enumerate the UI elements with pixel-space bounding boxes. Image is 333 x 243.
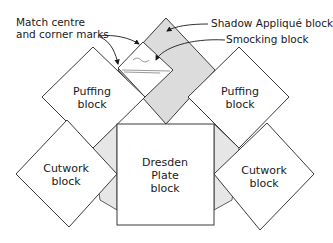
- puffing-right-label-1: Puffing: [221, 85, 259, 98]
- cutwork-right-label-2: block: [249, 177, 279, 190]
- dresden-label-1: Dresden: [142, 156, 188, 169]
- smocking-label: Smocking block: [226, 33, 310, 45]
- cutwork-left-label-2: block: [51, 175, 81, 188]
- match-marks-label-line2: and corner marks: [16, 28, 109, 40]
- quilt-layout-diagram: Match centre and corner marks Shadow App…: [0, 0, 333, 243]
- puffing-left-label-2: block: [77, 98, 107, 111]
- dresden-label-3: block: [150, 182, 180, 195]
- puffing-left-label-1: Puffing: [73, 85, 111, 98]
- cutwork-left-label-1: Cutwork: [43, 162, 89, 175]
- match-marks-label-line1: Match centre: [16, 16, 85, 28]
- cutwork-right-label-1: Cutwork: [241, 164, 287, 177]
- puffing-right-label-2: block: [225, 98, 255, 111]
- shadow-applique-label: Shadow Appliqué block: [211, 17, 333, 29]
- dresden-label-2: Plate: [151, 169, 179, 182]
